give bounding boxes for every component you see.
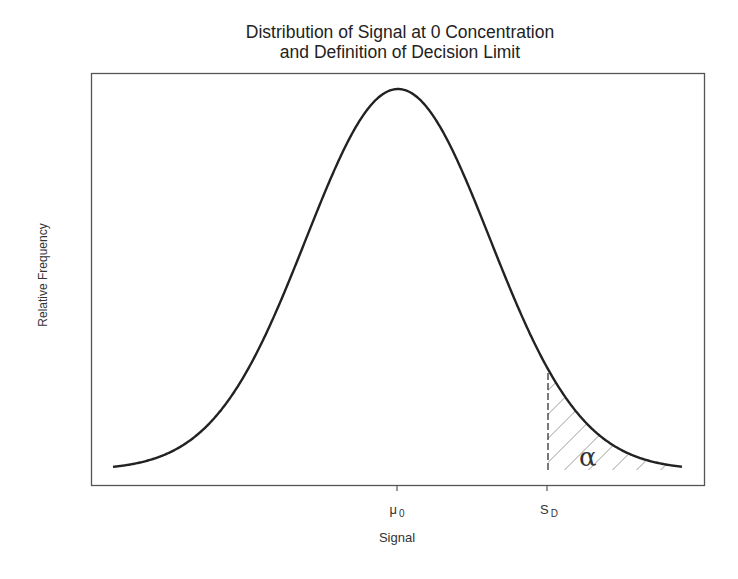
x-axis-label: Signal xyxy=(379,530,415,545)
plot-frame xyxy=(92,74,705,486)
x-tick-label-sd: SD xyxy=(540,502,558,517)
x-tick-label-mu0: μ0 xyxy=(389,502,404,517)
tick-main: S xyxy=(540,502,549,517)
alpha-label: α xyxy=(579,442,597,472)
alpha-hatched-tail xyxy=(548,369,682,470)
tick-sub: 0 xyxy=(399,508,405,519)
tick-main: μ xyxy=(389,502,397,517)
tail-region xyxy=(548,369,682,470)
plot-area: α xyxy=(0,0,738,579)
tick-sub: D xyxy=(551,508,558,519)
gaussian-curve xyxy=(113,89,682,467)
